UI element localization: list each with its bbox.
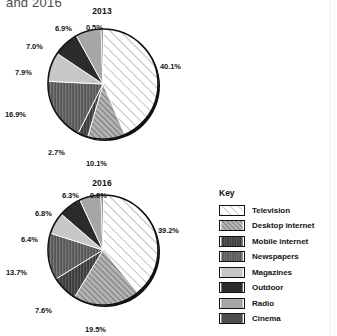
pie-percent-label: 2.7%: [48, 148, 65, 157]
pie-chart-2016: 2016 39.2%19.5%7.6%13.7%6.4%6.8%6.3%0.6%: [0, 178, 200, 336]
legend-item-label: Outdoor: [252, 283, 283, 292]
legend-item-label: Mobile internet: [252, 237, 308, 246]
legend-item-radio: Radio: [219, 296, 337, 310]
legend-item-label: Desktop internet: [252, 221, 314, 230]
legend-item-magazines: Magazines: [219, 265, 337, 279]
pie-percent-label: 13.7%: [6, 268, 27, 277]
chart-title-2013: 2013: [2, 6, 202, 16]
legend-item-label: Television: [252, 206, 290, 215]
legend-swatch-icon: [219, 205, 245, 216]
chart-title-2016: 2016: [2, 178, 202, 188]
legend: Key TelevisionDesktop internetMobile int…: [219, 188, 337, 327]
pie-percent-label: 39.2%: [158, 226, 179, 235]
figure-page: and 2016 2013 40.1%10.1%2.7%16.9%7.9%7.0…: [0, 0, 337, 336]
pie-percent-label: 0.5%: [86, 23, 103, 32]
pie-svg-2013: [47, 28, 161, 142]
legend-item-mobile-internet: Mobile internet: [219, 234, 337, 248]
legend-swatch-icon: [219, 236, 245, 247]
pie-percent-label: 6.8%: [35, 209, 52, 218]
legend-item-desktop-internet: Desktop internet: [219, 219, 337, 233]
pie-percent-label: 19.5%: [85, 325, 106, 334]
legend-item-television: Television: [219, 203, 337, 217]
legend-rows: TelevisionDesktop internetMobile interne…: [219, 203, 337, 326]
pie-percent-label: 10.1%: [86, 159, 107, 168]
legend-item-label: Newspapers: [252, 252, 299, 261]
pie-svg-2016: [47, 194, 161, 308]
pie-percent-label: 6.4%: [21, 235, 38, 244]
legend-item-label: Cinema: [252, 314, 281, 323]
pie-chart-2013: 2013 40.1%10.1%2.7%16.9%7.9%7.0%6.9%0.5%: [0, 6, 200, 176]
scan-artifact: [330, 0, 331, 336]
pie-percent-label: 16.9%: [5, 110, 26, 119]
legend-swatch-icon: [219, 298, 245, 309]
legend-item-label: Radio: [252, 299, 274, 308]
pie-percent-label: 0.6%: [90, 191, 107, 200]
legend-swatch-icon: [219, 282, 245, 293]
legend-swatch-icon: [219, 251, 245, 262]
legend-title: Key: [219, 188, 337, 198]
legend-item-cinema: Cinema: [219, 312, 337, 326]
legend-swatch-icon: [219, 220, 245, 231]
legend-item-outdoor: Outdoor: [219, 281, 337, 295]
legend-item-label: Magazines: [252, 268, 292, 277]
pie-percent-label: 7.9%: [15, 68, 32, 77]
legend-swatch-icon: [219, 267, 245, 278]
legend-swatch-icon: [219, 313, 245, 324]
pie-percent-label: 7.6%: [35, 306, 52, 315]
pie-percent-label: 40.1%: [160, 62, 181, 71]
pie-wrap-2013: [47, 28, 161, 142]
scan-artifact: [334, 0, 335, 336]
pie-percent-label: 6.3%: [62, 191, 79, 200]
pie-wrap-2016: [47, 194, 161, 308]
pie-percent-label: 6.9%: [55, 24, 72, 33]
legend-item-newspapers: Newspapers: [219, 250, 337, 264]
pie-percent-label: 7.0%: [26, 42, 43, 51]
